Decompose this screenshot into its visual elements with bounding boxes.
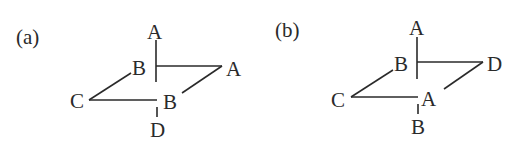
isomer-diagrams: (a) A B A C B D (b) A B D C A B	[0, 0, 513, 143]
bond-right-edge	[444, 62, 483, 89]
panel-a-label: (a)	[16, 25, 39, 49]
atom-right: A	[226, 57, 242, 81]
atom-front: A	[421, 87, 437, 111]
bond-right-edge	[182, 66, 222, 93]
atom-bottom: B	[411, 115, 425, 139]
panel-a: (a) A B A C B D	[16, 20, 242, 142]
atom-front: B	[163, 90, 177, 114]
atom-back-left: B	[394, 52, 408, 76]
atom-left: C	[331, 88, 345, 112]
bond-left-edge	[89, 73, 131, 100]
atom-left: C	[70, 89, 84, 113]
atom-top: A	[409, 16, 425, 40]
panel-b-label: (b)	[275, 18, 300, 42]
atom-right: D	[487, 52, 502, 76]
atom-bottom: D	[150, 118, 165, 142]
bond-left-edge	[351, 70, 393, 97]
atom-top: A	[147, 20, 163, 44]
atom-back-left: B	[132, 56, 146, 80]
panel-b: (b) A B D C A B	[275, 16, 502, 139]
